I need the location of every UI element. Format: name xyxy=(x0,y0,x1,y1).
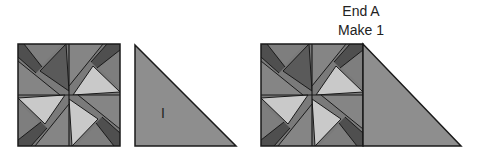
quilt-block-right xyxy=(261,44,363,146)
triangle-label: I xyxy=(161,105,165,121)
setting-triangle: I xyxy=(135,45,236,146)
quilt-diagram: I xyxy=(0,0,483,162)
attached-triangle xyxy=(363,44,461,146)
quilt-block-left xyxy=(18,44,120,146)
end-a-assembly xyxy=(261,44,461,146)
